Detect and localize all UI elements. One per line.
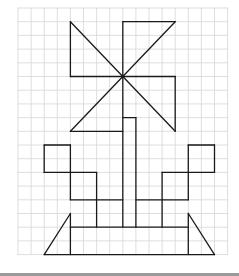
pinwheel-flower-figure: [44, 22, 214, 255]
grid-drawing: [0, 0, 239, 276]
pinwheel-center-dot: [121, 75, 125, 79]
center-dot: [121, 75, 125, 79]
